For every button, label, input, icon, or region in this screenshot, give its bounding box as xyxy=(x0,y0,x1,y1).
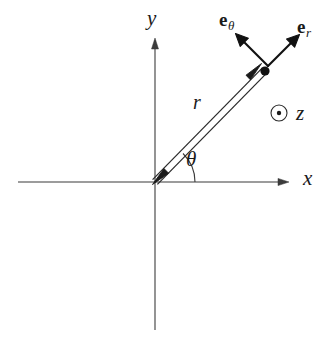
unit-vectors-group xyxy=(236,34,300,67)
polar-coordinates-diagram: y x r θ eθ er z xyxy=(0,0,335,341)
z-out-of-page-symbol xyxy=(271,105,287,121)
diagram-canvas xyxy=(0,0,335,341)
e-r-vector-shaft xyxy=(268,41,294,67)
y-axis-arrowhead xyxy=(152,38,159,49)
e-r-subscript: r xyxy=(305,25,311,40)
r-vector-label: r xyxy=(193,92,201,112)
x-axis-label: x xyxy=(303,168,312,189)
e-r-unit-vector-label: er xyxy=(297,17,311,39)
r-vector-group xyxy=(153,64,268,185)
e-theta-unit-vector-label: eθ xyxy=(219,10,234,32)
r-vector-line-upper xyxy=(153,68,263,180)
y-axis-label: y xyxy=(147,8,156,29)
z-axis-label: z xyxy=(296,103,304,124)
position-point-dot xyxy=(260,66,269,75)
x-axis-arrowhead xyxy=(278,178,289,185)
theta-angle-label: θ xyxy=(186,149,196,170)
r-vector-line-lower xyxy=(157,72,267,184)
e-theta-subscript: θ xyxy=(227,18,234,33)
e-theta-vector-shaft xyxy=(242,40,269,67)
z-center-dot-icon xyxy=(277,111,281,115)
